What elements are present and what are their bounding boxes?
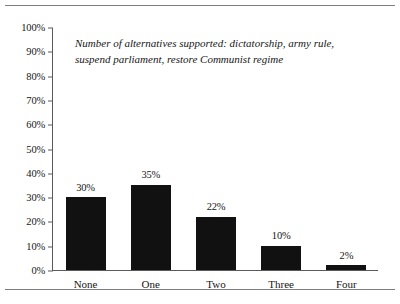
bar-group: 10%Three	[249, 28, 314, 270]
bar-none[interactable]: 30%	[66, 197, 106, 270]
bar-group: 22%Two	[183, 28, 248, 270]
bar-two[interactable]: 22%	[196, 217, 236, 270]
bar-value-label: 22%	[207, 202, 226, 213]
bar-value-label: 10%	[272, 231, 291, 242]
bar-series: 30%None35%One22%Two10%Three2%Four	[53, 28, 378, 270]
bar-chart: Number of alternatives supported: dictat…	[0, 12, 400, 284]
y-tick-label: 90%	[26, 47, 45, 58]
bar-group: 30%None	[53, 28, 118, 270]
y-tick-label: 10%	[26, 241, 45, 252]
y-tick-mark	[48, 271, 53, 272]
y-tick-label: 40%	[26, 169, 45, 180]
bar-four[interactable]: 2%	[326, 265, 366, 270]
figure-bottom-rule	[5, 289, 395, 290]
bar-value-label: 35%	[141, 170, 160, 181]
bar-value-label: 2%	[340, 251, 354, 262]
bar-value-label: 30%	[76, 183, 95, 194]
bar-three[interactable]: 10%	[261, 246, 301, 270]
y-tick-label: 0%	[31, 266, 45, 277]
y-tick-label: 50%	[26, 144, 45, 155]
bar-one[interactable]: 35%	[131, 185, 171, 270]
bar-group: 2%Four	[314, 28, 379, 270]
y-tick-label: 70%	[26, 96, 45, 107]
y-tick-label: 30%	[26, 193, 45, 204]
y-tick-label: 20%	[26, 217, 45, 228]
y-tick-label: 100%	[21, 23, 45, 34]
y-tick-label: 80%	[26, 71, 45, 82]
y-tick-label: 60%	[26, 120, 45, 131]
plot-area: Number of alternatives supported: dictat…	[52, 28, 378, 271]
figure-top-rule	[5, 5, 395, 6]
bar-group: 35%One	[118, 28, 183, 270]
